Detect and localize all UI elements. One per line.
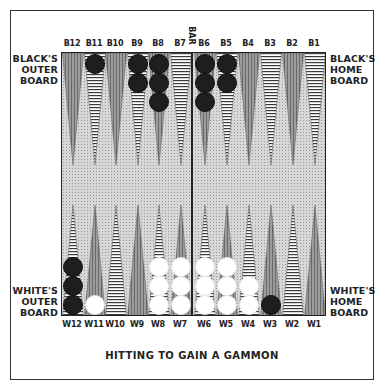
point-label-w2: W2	[280, 320, 304, 329]
point-label-w3: W3	[258, 320, 282, 329]
white-checker[interactable]	[171, 295, 191, 315]
label-line: WHITE'S	[330, 285, 382, 296]
point-label-w1: W1	[302, 320, 326, 329]
point-b4[interactable]	[239, 53, 260, 165]
board-points	[62, 53, 326, 316]
white-checker[interactable]	[195, 257, 215, 277]
label-line: BOARD	[6, 307, 58, 318]
point-label-b6: B6	[192, 39, 216, 48]
label-line: BLACK'S	[330, 53, 382, 64]
white-outer-board-label: WHITE'S OUTER BOARD	[6, 285, 58, 318]
white-checker[interactable]	[217, 257, 237, 277]
white-checker[interactable]	[149, 276, 169, 296]
black-checker[interactable]	[63, 276, 83, 296]
white-checker[interactable]	[195, 276, 215, 296]
black-checker[interactable]	[149, 73, 169, 93]
point-b3[interactable]	[261, 53, 282, 165]
label-line: BOARD	[330, 307, 382, 318]
black-outer-board-label: BLACK'S OUTER BOARD	[6, 53, 58, 86]
point-label-w10: W10	[103, 320, 127, 329]
black-checker[interactable]	[261, 295, 281, 315]
label-line: WHITE'S	[6, 285, 58, 296]
bar-divider	[191, 53, 193, 315]
point-label-b3: B3	[258, 39, 282, 48]
point-label-b10: B10	[103, 39, 127, 48]
black-home-board-label: BLACK'S HOME BOARD	[330, 53, 382, 86]
label-line: BLACK'S	[6, 53, 58, 64]
label-line: HOME	[330, 296, 382, 307]
black-checker[interactable]	[195, 92, 215, 112]
backgammon-board	[61, 52, 326, 316]
label-line: HOME	[330, 64, 382, 75]
point-label-w4: W4	[236, 320, 260, 329]
point-w1[interactable]	[305, 205, 326, 316]
white-checker[interactable]	[217, 276, 237, 296]
white-checker[interactable]	[239, 276, 259, 296]
white-home-board-label: WHITE'S HOME BOARD	[330, 285, 382, 318]
label-line: BOARD	[330, 75, 382, 86]
point-label-w7: W7	[168, 320, 192, 329]
black-checker[interactable]	[128, 73, 148, 93]
black-checker[interactable]	[63, 257, 83, 277]
white-checker[interactable]	[217, 295, 237, 315]
point-label-w8: W8	[146, 320, 170, 329]
point-w10[interactable]	[106, 205, 127, 316]
white-checker[interactable]	[149, 257, 169, 277]
point-label-b4: B4	[236, 39, 260, 48]
white-checker[interactable]	[85, 295, 105, 315]
point-b2[interactable]	[283, 53, 304, 165]
point-label-b1: B1	[302, 39, 326, 48]
point-label-w12: W12	[60, 320, 84, 329]
label-line: BOARD	[6, 75, 58, 86]
black-checker[interactable]	[85, 54, 105, 74]
white-checker[interactable]	[239, 295, 259, 315]
point-label-b5: B5	[214, 39, 238, 48]
diagram-caption: HITTING TO GAIN A GAMMON	[0, 350, 384, 361]
white-checker[interactable]	[171, 276, 191, 296]
point-w9[interactable]	[128, 205, 149, 316]
point-label-b8: B8	[146, 39, 170, 48]
point-label-w5: W5	[214, 320, 238, 329]
point-b10[interactable]	[106, 53, 127, 165]
point-w2[interactable]	[283, 205, 304, 316]
black-checker[interactable]	[128, 54, 148, 74]
black-checker[interactable]	[217, 54, 237, 74]
black-checker[interactable]	[195, 54, 215, 74]
white-checker[interactable]	[195, 295, 215, 315]
white-checker[interactable]	[171, 257, 191, 277]
point-label-b2: B2	[280, 39, 304, 48]
point-b7[interactable]	[171, 53, 192, 165]
point-b12[interactable]	[63, 53, 84, 165]
label-line: OUTER	[6, 64, 58, 75]
black-checker[interactable]	[63, 295, 83, 315]
white-checker[interactable]	[149, 295, 169, 315]
point-b1[interactable]	[305, 53, 326, 165]
label-line: OUTER	[6, 296, 58, 307]
black-checker[interactable]	[195, 73, 215, 93]
black-checker[interactable]	[149, 54, 169, 74]
point-label-b7: B7	[168, 39, 192, 48]
point-label-w6: W6	[192, 320, 216, 329]
black-checker[interactable]	[149, 92, 169, 112]
black-checker[interactable]	[217, 73, 237, 93]
point-label-b12: B12	[60, 39, 84, 48]
